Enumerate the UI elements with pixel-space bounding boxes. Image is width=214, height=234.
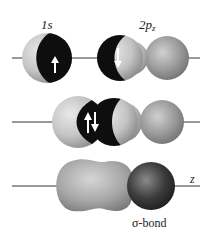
label-z-axis: z: [190, 172, 195, 187]
row-sigma-bond: [12, 159, 200, 211]
antibonding-lobe: [127, 162, 175, 210]
label-2p: 2p: [139, 17, 152, 32]
orbital-1s: [22, 30, 80, 86]
row-separate-orbitals: [12, 30, 200, 86]
2pz-right-lobe: [140, 100, 184, 144]
label-1s: 1s: [41, 17, 53, 33]
label-2p-subscript: z: [152, 23, 156, 33]
row-overlapping-orbitals: [12, 94, 200, 150]
2pz-right-lobe: [145, 36, 189, 80]
orbital-diagram: [0, 0, 214, 234]
label-sigma-bond: σ-bond: [132, 216, 166, 231]
label-2pz: 2pz: [139, 17, 156, 33]
bonding-lobe: [56, 159, 133, 211]
orbital-2pz: [96, 34, 189, 82]
